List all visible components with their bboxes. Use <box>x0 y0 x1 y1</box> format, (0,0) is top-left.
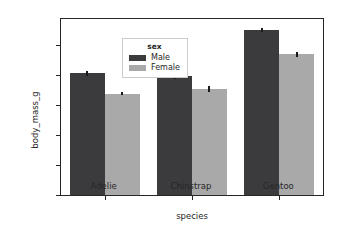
x-tick-label: Chinstrap <box>171 181 212 191</box>
legend-swatch <box>129 65 146 71</box>
legend-label: Male <box>151 53 170 62</box>
legend-swatch <box>129 55 146 61</box>
error-bar <box>208 86 210 92</box>
error-bar <box>296 52 298 57</box>
bar <box>244 30 279 195</box>
bar <box>157 76 192 195</box>
error-bar <box>86 71 88 76</box>
y-tick <box>56 165 61 166</box>
y-tick <box>56 105 61 106</box>
plot-axes: sex MaleFemale 010002000300040005000 <box>60 18 324 196</box>
bar <box>192 89 227 195</box>
x-tick <box>105 195 106 200</box>
error-bar <box>261 28 263 32</box>
x-axis-label: species <box>60 211 324 221</box>
legend-title: sex <box>129 42 180 51</box>
error-bar <box>121 92 123 96</box>
plot-area <box>61 19 323 195</box>
x-tick <box>192 195 193 200</box>
bar <box>279 54 314 195</box>
legend-entries: MaleFemale <box>129 53 180 72</box>
legend-label: Female <box>151 63 180 72</box>
legend: sex MaleFemale <box>122 38 188 78</box>
x-tick-label: Adelie <box>91 181 117 191</box>
y-tick <box>56 135 61 136</box>
y-tick <box>56 75 61 76</box>
bar <box>105 94 140 195</box>
y-axis-label: body_mass_g <box>30 91 40 148</box>
y-tick <box>56 195 61 196</box>
legend-entry: Male <box>129 53 180 62</box>
x-tick-label: Gentoo <box>263 181 294 191</box>
figure: body_mass_g sex MaleFemale 0100020003000… <box>0 0 349 239</box>
legend-entry: Female <box>129 63 180 72</box>
bar <box>70 73 105 195</box>
x-tick <box>279 195 280 200</box>
y-tick <box>56 45 61 46</box>
